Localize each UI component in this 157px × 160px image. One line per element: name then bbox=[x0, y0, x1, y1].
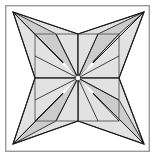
figure-root bbox=[0, 0, 157, 160]
star-polygon-figure bbox=[0, 0, 157, 160]
hub-center-dot bbox=[76, 76, 80, 80]
